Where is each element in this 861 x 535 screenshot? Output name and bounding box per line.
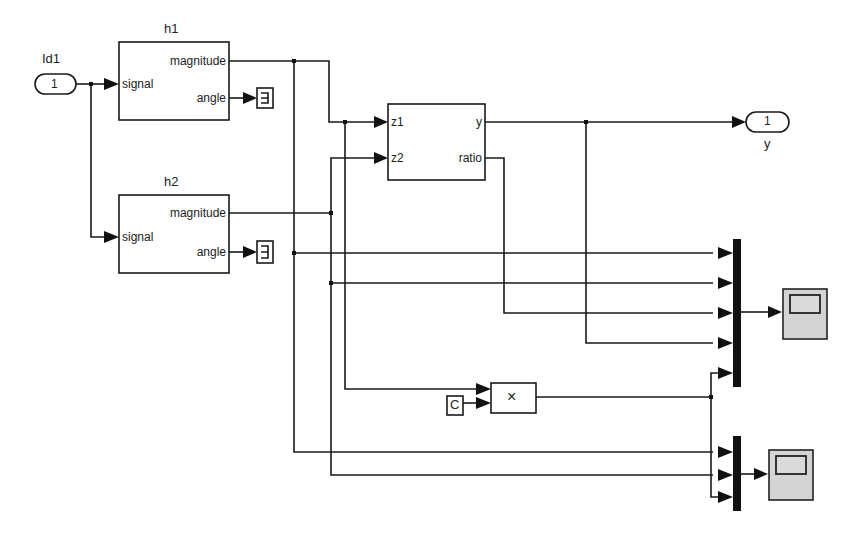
h1-port-angle: angle [160, 91, 226, 105]
arrow-mux1-in1 [718, 247, 733, 259]
arrow-product-in2 [476, 397, 491, 409]
inport-number: 1 [51, 77, 58, 91]
junction [584, 120, 588, 124]
arrow-mux2-in2 [718, 469, 733, 481]
arrow-h2-term [243, 246, 257, 258]
h2-port-magnitude: magnitude [160, 206, 226, 220]
product-symbol: × [507, 388, 516, 406]
junction [329, 211, 333, 215]
junction [709, 395, 713, 399]
h2-port-angle: angle [160, 245, 226, 259]
outport-label: y [764, 137, 771, 151]
outport-number: 1 [764, 114, 771, 128]
wire-inport-h2[interactable] [91, 84, 108, 237]
junction [89, 82, 93, 86]
wire-y-mux1[interactable] [586, 122, 713, 343]
wire-product-mux2[interactable] [711, 397, 719, 497]
arrow-mux1-in2 [718, 277, 733, 289]
arrow-scope1 [768, 306, 782, 318]
constant-symbol: C [450, 398, 459, 412]
calc-port-z1: z1 [391, 115, 404, 129]
arrow-h1-term [243, 92, 257, 104]
arrow-h1-signal [104, 78, 119, 90]
scope-icon [776, 456, 806, 474]
inport-label: Id1 [42, 52, 60, 66]
arrow-mux1-in3 [718, 307, 733, 319]
calc-port-z2: z2 [391, 151, 404, 165]
arrow-h2-signal [104, 231, 119, 243]
wire-ratio-mux1[interactable] [485, 158, 713, 313]
h2-port-signal: signal [122, 230, 153, 244]
block-h2-title: h2 [164, 175, 178, 189]
wire-h1mag-z1[interactable] [229, 61, 376, 122]
h1-port-signal: signal [122, 77, 153, 91]
arrow-mux2-in3 [718, 491, 733, 503]
junction [343, 120, 347, 124]
arrow-z2 [374, 152, 388, 164]
mux-2[interactable] [733, 436, 741, 511]
junction [329, 281, 333, 285]
block-h1-title: h1 [164, 22, 178, 36]
scope-2[interactable] [769, 450, 813, 500]
scope-icon [790, 295, 820, 313]
wire-product-mux1[interactable] [711, 373, 719, 397]
h1-port-magnitude: magnitude [160, 54, 226, 68]
junction [292, 251, 296, 255]
junction [292, 59, 296, 63]
arrow-mux1-in4 [718, 337, 733, 349]
arrow-product-in1 [476, 383, 491, 395]
arrow-mux1-in5 [718, 367, 733, 379]
scope-1[interactable] [783, 289, 827, 339]
arrow-scope2 [754, 468, 768, 480]
wire-h2mag-z2[interactable] [331, 158, 376, 213]
calc-port-y: y [430, 115, 482, 129]
arrow-outport [732, 116, 746, 128]
calc-port-ratio: ratio [430, 151, 482, 165]
arrow-z1 [374, 116, 388, 128]
mux-1[interactable] [733, 239, 741, 387]
arrow-mux2-in1 [718, 446, 733, 458]
